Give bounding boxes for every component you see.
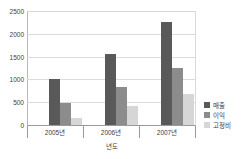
legend-label: 매출 [213,102,225,109]
plot-area [27,11,196,126]
bar-group [49,11,89,125]
y-tick-label: 0 [0,122,24,129]
bar-group [161,11,201,125]
legend-swatch-icon [204,112,210,118]
bar-series-0 [49,79,60,125]
legend-item-1: 이익 [204,110,249,120]
y-tick-label: 1000 [0,76,24,83]
legend-label: 이익 [213,112,225,119]
bar-series-2 [127,106,138,125]
legend-swatch-icon [204,122,210,128]
y-tick-label: 2000 [0,31,24,38]
bar-group [105,11,145,125]
legend-label: 고정비 [213,122,231,129]
legend-item-0: 매출 [204,100,249,110]
legend-swatch-icon [204,102,210,108]
bar-series-2 [183,94,194,125]
bar-chart: 2500 2000 1500 1000 500 0 [0,0,249,159]
chart-legend: 매출 이익 고정비 [204,100,249,130]
bar-series-1 [116,87,127,125]
bar-series-0 [105,54,116,125]
bar-series-1 [60,103,71,125]
x-axis-title: 년도 [27,141,196,151]
y-axis-labels: 2500 2000 1500 1000 500 0 [0,11,24,126]
bar-series-1 [172,68,183,125]
bar-series-2 [71,118,82,125]
x-tick-label: 2005년 [25,128,85,137]
legend-item-2: 고정비 [204,120,249,130]
x-tick-label: 2006년 [81,128,141,137]
bar-series-0 [161,22,172,126]
y-tick-label: 500 [0,99,24,106]
y-tick-label: 2500 [0,8,24,15]
x-tick-label: 2007년 [137,128,197,137]
y-tick-label: 1500 [0,54,24,61]
